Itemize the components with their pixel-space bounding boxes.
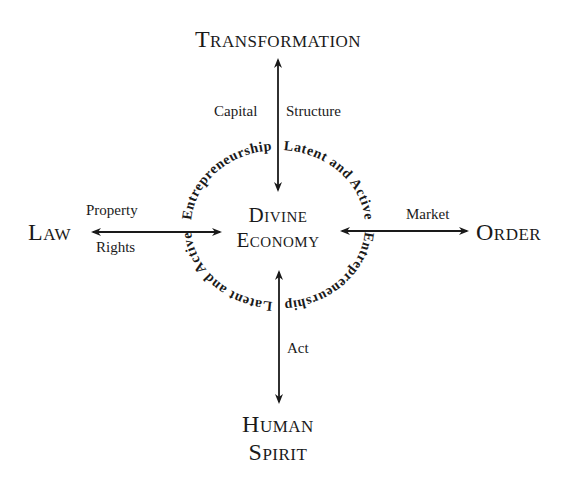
- node-law-label: Law: [28, 219, 71, 245]
- edge-label-market: Market: [406, 206, 449, 223]
- edge-label-property: Property: [86, 202, 138, 219]
- edge-label-capital: Capital: [214, 103, 257, 120]
- node-order: Order: [476, 218, 566, 246]
- node-law: Law: [28, 218, 88, 246]
- node-transformation: Transformation: [178, 26, 378, 52]
- bottom-line-1: Human: [218, 410, 338, 438]
- center-line-2: Economy: [218, 228, 338, 253]
- edge-label-structure: Structure: [286, 103, 341, 120]
- node-transformation-label: Transformation: [195, 26, 361, 52]
- edge-label-rights: Rights: [96, 239, 135, 256]
- node-human-spirit: Human Spirit: [218, 410, 338, 466]
- node-divine-economy: Divine Economy: [218, 203, 338, 253]
- bottom-line-2: Spirit: [218, 438, 338, 466]
- edge-label-act: Act: [287, 340, 309, 357]
- node-order-label: Order: [476, 219, 541, 245]
- center-line-1: Divine: [218, 203, 338, 228]
